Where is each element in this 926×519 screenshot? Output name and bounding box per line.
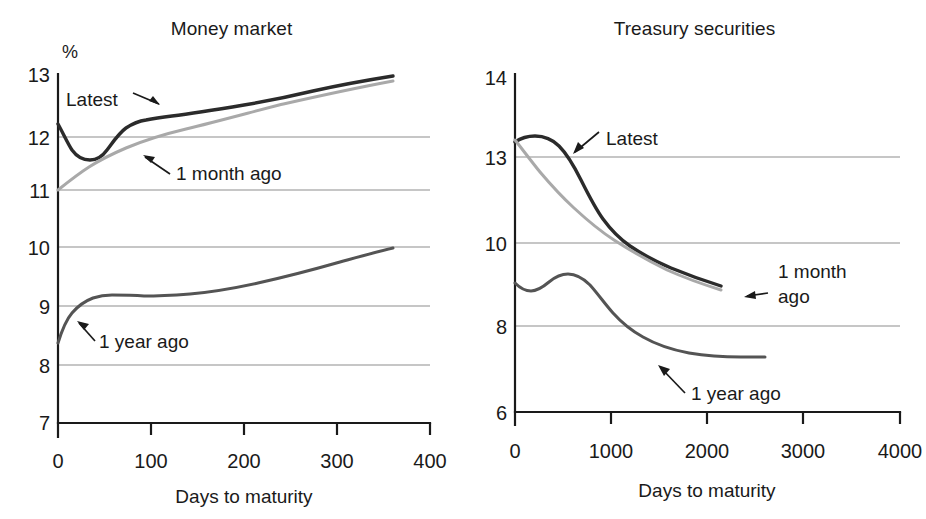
y-tick-11: 11 — [29, 180, 50, 202]
x-axis-title-right: Days to maturity — [638, 480, 776, 501]
annotation-one-month-ago-left: 1 month ago — [143, 155, 282, 184]
label-latest-left: Latest — [66, 89, 118, 110]
y-tick-10: 10 — [485, 233, 507, 255]
y-tick-labels-left: 13 12 11 10 9 8 7 — [28, 64, 50, 434]
label-latest-right: Latest — [606, 128, 658, 149]
panel-treasury-securities: Treasury securities 14 13 10 — [463, 0, 926, 519]
x-tick-300: 300 — [320, 450, 353, 472]
annotation-latest-right: Latest — [573, 128, 658, 154]
y-tick-8: 8 — [496, 316, 507, 338]
arrowhead-one-month-ago-right — [744, 291, 756, 299]
annotation-latest-left: Latest — [66, 89, 160, 110]
y-tick-8: 8 — [39, 355, 50, 377]
annotation-one-month-ago-right: 1 month ago — [744, 261, 847, 307]
x-tick-3000: 3000 — [781, 440, 826, 462]
x-tick-200: 200 — [227, 450, 260, 472]
label-one-month-ago-left: 1 month ago — [176, 163, 282, 184]
x-tick-0: 0 — [52, 450, 63, 472]
x-tick-labels-right: 0 1000 2000 3000 4000 — [509, 440, 922, 462]
y-tick-13: 13 — [28, 64, 50, 86]
annotation-one-year-ago-right: 1 year ago — [658, 365, 781, 404]
x-tick-4000: 4000 — [878, 440, 923, 462]
y-tick-10: 10 — [28, 237, 50, 259]
y-tick-14: 14 — [485, 67, 507, 89]
x-axis-title-left: Days to maturity — [175, 486, 313, 507]
y-tick-12: 12 — [28, 127, 50, 149]
x-tick-labels-left: 0 100 200 300 400 — [52, 450, 446, 472]
label-one-month-ago-right-line2: ago — [778, 286, 810, 307]
axes-left — [58, 74, 430, 437]
series-latest-right — [515, 136, 721, 286]
series-one-year-ago-left — [58, 248, 393, 343]
arrowhead-latest-left — [149, 96, 160, 105]
annotation-one-year-ago-left: 1 year ago — [77, 321, 189, 352]
x-tick-0: 0 — [509, 440, 520, 462]
y-tick-13: 13 — [485, 147, 507, 169]
y-tick-9: 9 — [39, 296, 50, 318]
arrowhead-latest-right — [573, 142, 584, 154]
money-market-plot: 13 12 11 10 9 8 7 % 0 100 200 300 400 Da… — [0, 0, 463, 519]
label-one-year-ago-right: 1 year ago — [691, 383, 781, 404]
x-tick-1000: 1000 — [589, 440, 634, 462]
label-one-year-ago-left: 1 year ago — [99, 331, 189, 352]
x-tick-2000: 2000 — [685, 440, 730, 462]
y-axis-unit-label: % — [62, 42, 78, 62]
arrowhead-one-year-ago-left — [77, 321, 89, 330]
dual-line-chart-figure: Money market 13 12 — [0, 0, 926, 519]
axes-right — [515, 74, 900, 425]
panel-money-market: Money market 13 12 — [0, 0, 463, 519]
y-tick-labels-right: 14 13 10 8 6 — [485, 67, 507, 424]
treasury-securities-plot: 14 13 10 8 6 0 1000 2000 3000 4000 Days … — [463, 0, 926, 519]
y-tick-6: 6 — [496, 402, 507, 424]
series-one-year-ago-right — [515, 274, 765, 357]
gridlines-right — [515, 157, 900, 326]
y-tick-7: 7 — [39, 412, 50, 434]
label-one-month-ago-right-line1: 1 month — [778, 261, 847, 282]
series-one-month-ago-right — [515, 140, 721, 290]
x-tick-400: 400 — [413, 450, 446, 472]
x-tick-100: 100 — [134, 450, 167, 472]
